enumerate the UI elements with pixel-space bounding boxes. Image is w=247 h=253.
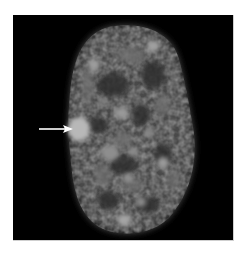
arrow-right-icon: [39, 125, 73, 133]
focus: [101, 145, 119, 161]
focus: [157, 157, 169, 169]
focus: [117, 214, 131, 226]
focus: [147, 40, 159, 52]
focus: [144, 128, 154, 138]
focus: [128, 147, 138, 157]
nucleus-image: [13, 15, 234, 241]
nucleus: [13, 15, 234, 241]
micrograph-panel: [13, 15, 234, 241]
focus: [99, 97, 107, 105]
focus: [136, 197, 146, 207]
focus: [88, 59, 100, 71]
focus: [115, 107, 129, 119]
focus: [123, 173, 133, 183]
